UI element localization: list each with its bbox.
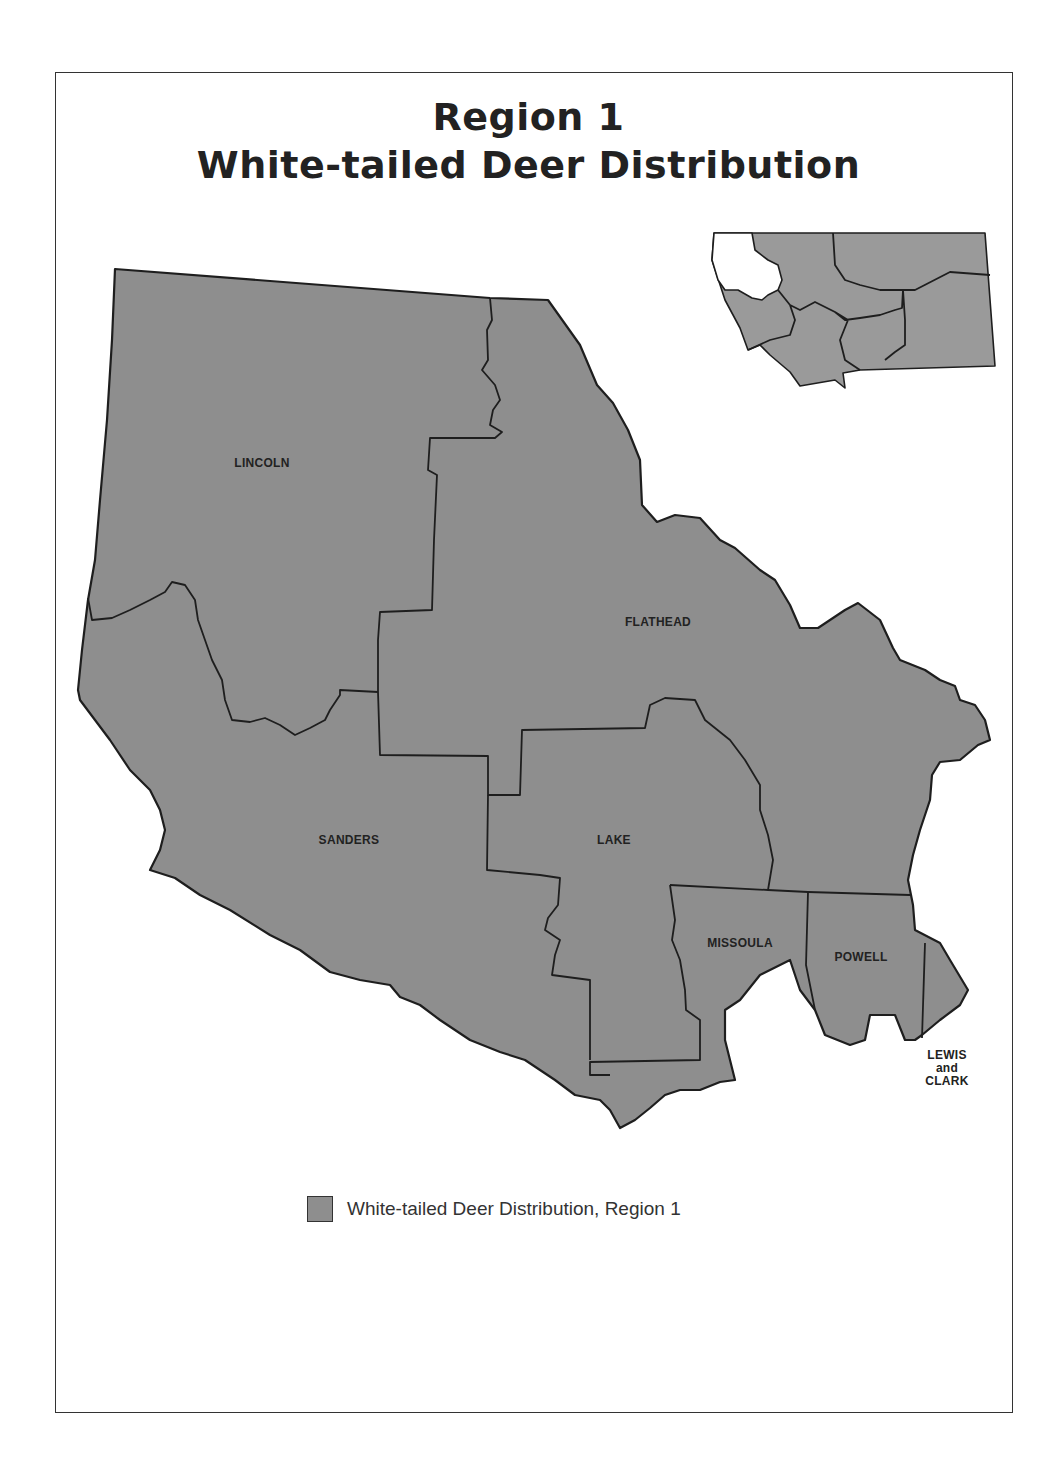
county-label-powell: POWELL — [834, 951, 887, 963]
county-label-flathead: FLATHEAD — [625, 616, 691, 628]
legend-swatch-distribution — [307, 1196, 333, 1222]
legend-label: White-tailed Deer Distribution, Region 1 — [347, 1198, 681, 1220]
county-label-lincoln: LINCOLN — [234, 457, 289, 469]
county-label-clark: CLARK — [925, 1075, 969, 1087]
county-label-lake: LAKE — [597, 834, 631, 846]
county-label-missoula: MISSOULA — [707, 937, 773, 949]
county-label-lewis: LEWIS — [927, 1049, 967, 1061]
county-label-sanders: SANDERS — [319, 834, 380, 846]
map-legend: White-tailed Deer Distribution, Region 1 — [307, 1196, 681, 1222]
montana-inset-map — [0, 0, 1057, 1475]
county-label-and: and — [936, 1062, 958, 1074]
